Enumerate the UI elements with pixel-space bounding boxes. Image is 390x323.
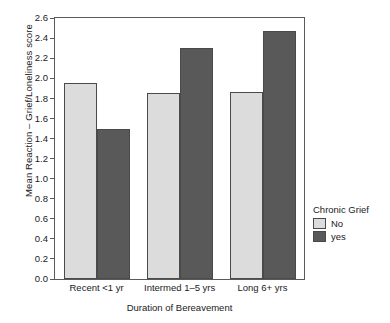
- y-axis-tick-label: 1.4: [35, 134, 50, 144]
- x-axis-tick-label: Intermed 1–5 yrs: [144, 282, 215, 293]
- y-axis-tick-label: 2.6: [35, 13, 50, 23]
- y-axis-ticks: 0.00.20.40.60.81.01.21.41.61.82.02.22.42…: [0, 0, 54, 323]
- legend-entries: Noyes: [313, 218, 389, 242]
- bar: [230, 92, 263, 279]
- bar: [64, 83, 97, 279]
- bar: [263, 31, 296, 279]
- y-axis-tick-label: 0.0: [35, 274, 50, 284]
- bar: [97, 129, 130, 279]
- x-axis-title: Duration of Bereavement: [54, 302, 305, 313]
- y-axis-tick-label: 0.4: [35, 234, 50, 244]
- legend-swatch: [313, 231, 326, 242]
- y-axis-tick-label: 2.4: [35, 33, 50, 43]
- y-axis-tick-label: 2.0: [35, 73, 50, 83]
- legend: Chronic Grief Noyes: [313, 204, 389, 244]
- y-axis-tick-label: 1.2: [35, 154, 50, 164]
- y-axis-tick-label: 1.0: [35, 174, 50, 184]
- bar: [180, 48, 213, 279]
- y-axis-tick-label: 0.8: [35, 194, 50, 204]
- legend-title: Chronic Grief: [313, 204, 389, 215]
- y-axis-tick-label: 0.2: [35, 254, 50, 264]
- legend-label: yes: [331, 231, 346, 242]
- legend-item: No: [313, 218, 389, 229]
- bars-layer: [55, 18, 304, 279]
- y-axis-tick-label: 2.2: [35, 53, 50, 63]
- y-axis-tick-label: 1.6: [35, 114, 50, 124]
- x-axis-tick-label: Long 6+ yrs: [238, 282, 288, 293]
- plot-area: [54, 17, 305, 280]
- legend-item: yes: [313, 231, 389, 242]
- bar-chart: Mean Reaction – Grief/Loneliness score 0…: [0, 0, 390, 323]
- y-axis-tick-label: 0.6: [35, 214, 50, 224]
- legend-swatch: [313, 218, 326, 229]
- x-axis-tick-labels: Recent <1 yrIntermed 1–5 yrsLong 6+ yrs: [54, 282, 305, 298]
- legend-label: No: [331, 218, 343, 229]
- bar: [147, 93, 180, 279]
- x-axis-tick-label: Recent <1 yr: [70, 282, 124, 293]
- y-axis-tick-label: 1.8: [35, 94, 50, 104]
